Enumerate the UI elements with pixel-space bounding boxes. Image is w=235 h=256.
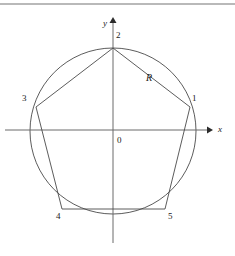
- y-axis-label: y: [103, 19, 107, 28]
- figure-root: 1 2 3 4 5 0 R x y: [0, 0, 235, 256]
- x-axis-label: x: [218, 125, 222, 134]
- x-axis-arrowhead: [207, 127, 213, 134]
- y-axis-arrowhead: [110, 17, 117, 23]
- vertex-label-1: 1: [192, 94, 197, 103]
- origin-label: 0: [117, 136, 122, 145]
- vertex-label-5: 5: [168, 212, 173, 221]
- vertex-label-2: 2: [116, 31, 121, 40]
- radius-label: R: [146, 73, 152, 83]
- vertex-label-4: 4: [56, 212, 61, 221]
- vertex-label-3: 3: [22, 94, 27, 103]
